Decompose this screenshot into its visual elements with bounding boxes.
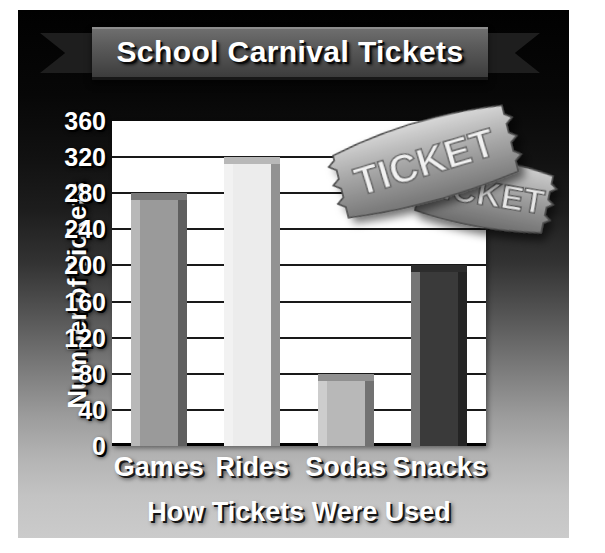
- bar-shadow-edge: [458, 265, 467, 446]
- y-tick-label: 320: [36, 145, 106, 170]
- y-tick-label: 0: [36, 434, 106, 459]
- bar-top-bevel: [318, 374, 374, 381]
- bar-highlight-edge: [224, 157, 233, 446]
- x-axis-label: How Tickets Were Used: [110, 497, 488, 528]
- x-tick-label: Sodas: [299, 452, 393, 483]
- x-tick-label: Games: [112, 452, 206, 483]
- y-tick-label: 240: [36, 217, 106, 242]
- y-tick-label: 80: [36, 361, 106, 386]
- bar: [318, 374, 374, 446]
- x-axis-tick-labels: GamesRidesSodasSnacks: [112, 452, 486, 492]
- bar-highlight-edge: [318, 374, 327, 446]
- bar-highlight-edge: [411, 265, 420, 446]
- bar-series: [112, 121, 486, 446]
- bar-highlight-edge: [131, 193, 140, 446]
- y-tick-label: 200: [36, 253, 106, 278]
- bar-top-bevel: [224, 157, 280, 164]
- y-tick-label: 280: [36, 181, 106, 206]
- y-tick-label: 120: [36, 325, 106, 350]
- bar: [224, 157, 280, 446]
- y-axis-tick-labels: 36032028024020016012080400: [36, 115, 106, 451]
- bar-shadow-edge: [365, 374, 374, 446]
- bar-shadow-edge: [178, 193, 187, 446]
- plot-area: [112, 121, 486, 446]
- y-tick-label: 40: [36, 397, 106, 422]
- title-ribbon: School Carnival Tickets: [40, 27, 540, 79]
- y-tick-label: 160: [36, 289, 106, 314]
- x-tick-label: Rides: [206, 452, 300, 483]
- chart-title: School Carnival Tickets: [92, 29, 488, 75]
- bar-top-bevel: [131, 193, 187, 200]
- bar-top-bevel: [411, 265, 467, 272]
- bar: [131, 193, 187, 446]
- chart-poster: School Carnival Tickets Number of Ticket…: [0, 0, 605, 553]
- bar: [411, 265, 467, 446]
- y-tick-label: 360: [36, 109, 106, 134]
- bar-shadow-edge: [271, 157, 280, 446]
- x-tick-label: Snacks: [393, 452, 487, 483]
